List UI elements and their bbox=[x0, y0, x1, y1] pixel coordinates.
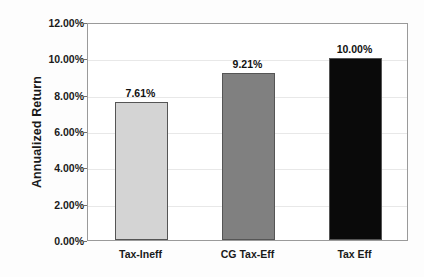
y-axis-tick-mark bbox=[83, 59, 87, 60]
bar-value-label: 7.61% bbox=[126, 87, 156, 99]
bar-value-label: 10.00% bbox=[337, 43, 373, 55]
y-axis-tick-label: 8.00% bbox=[32, 90, 84, 102]
bar-tax-eff bbox=[329, 58, 382, 240]
y-axis-tick-label: 2.00% bbox=[32, 199, 84, 211]
y-axis-tick-mark bbox=[83, 168, 87, 169]
y-axis-tick-mark bbox=[83, 23, 87, 24]
y-axis-tick-mark bbox=[83, 132, 87, 133]
bar-value-label: 9.21% bbox=[233, 58, 263, 70]
y-axis-tick-label: 0.00% bbox=[32, 235, 84, 247]
bar-cg-tax-eff bbox=[222, 73, 275, 240]
y-axis-tick-labels: 0.00%2.00%4.00%6.00%8.00%10.00%12.00% bbox=[28, 0, 84, 277]
y-axis-tick-mark bbox=[83, 241, 87, 242]
y-axis-tick-label: 6.00% bbox=[32, 126, 84, 138]
y-axis-tick-label: 12.00% bbox=[32, 17, 84, 29]
x-axis-category-label: Tax Eff bbox=[337, 248, 371, 260]
x-axis-category-label: CG Tax-Eff bbox=[221, 248, 274, 260]
bar-chart: Annualized Return 0.00%2.00%4.00%6.00%8.… bbox=[0, 0, 424, 277]
x-axis-category-label: Tax-Ineff bbox=[119, 248, 162, 260]
plot-area bbox=[87, 23, 408, 241]
y-axis-tick-mark bbox=[83, 205, 87, 206]
y-axis-tick-mark bbox=[83, 96, 87, 97]
bar-tax-ineff bbox=[115, 102, 168, 240]
y-axis-tick-label: 10.00% bbox=[32, 53, 84, 65]
y-axis-tick-label: 4.00% bbox=[32, 162, 84, 174]
